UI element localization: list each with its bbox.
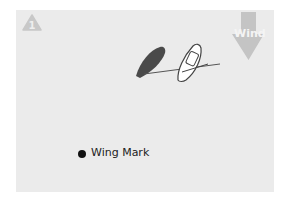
- svg-text:1: 1: [29, 20, 36, 31]
- boats-illustration: [130, 40, 225, 85]
- wing-mark-label: Wing Mark: [91, 146, 149, 159]
- wing-mark-dot: [78, 150, 86, 158]
- wind-label: Wind: [234, 27, 264, 40]
- warning-triangle-icon: 1: [22, 14, 42, 31]
